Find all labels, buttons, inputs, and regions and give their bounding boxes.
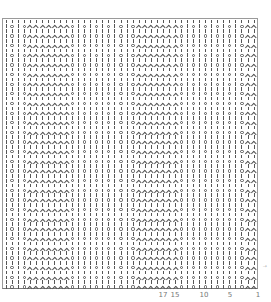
column-number: 1 xyxy=(256,291,260,299)
column-number: 5 xyxy=(228,291,232,299)
knitting-chart-grid xyxy=(2,18,258,289)
chart-row xyxy=(3,285,257,290)
column-number: 10 xyxy=(200,291,209,299)
column-number: 17 xyxy=(159,291,168,299)
column-number: 15 xyxy=(171,291,180,299)
decrease-icon xyxy=(251,285,257,290)
row-direction-label: ↑ xyxy=(262,264,268,268)
column-number-axis: 17151051 xyxy=(0,291,271,302)
